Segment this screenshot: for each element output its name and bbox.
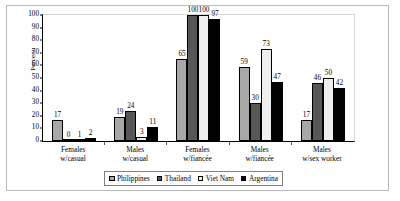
bar-slot: 17 (52, 15, 63, 141)
legend-swatch-icon (157, 176, 163, 182)
bar[interactable] (52, 120, 63, 141)
bar-slot: 3 (136, 15, 147, 141)
bar-value-label: 50 (325, 70, 332, 78)
x-label-line-2: w/fiancée (229, 154, 291, 163)
x-label-line-1: Females (166, 145, 228, 154)
x-label-line-1: Males (229, 145, 291, 154)
bar-slot: 11 (147, 15, 158, 141)
bar-group: 6510010097 (167, 15, 229, 141)
bar-group: 17012 (43, 15, 105, 141)
bar-value-label: 2 (89, 130, 93, 138)
bar[interactable] (147, 127, 158, 141)
legend-label: Thailand (165, 175, 191, 182)
bar-value-label: 100 (188, 7, 199, 15)
legend-label: Argentina (249, 175, 278, 182)
x-axis-category-label: Femalesw/fiancée (166, 145, 228, 164)
bar-slot: 73 (261, 15, 272, 141)
bar-group-bars: 1924311 (105, 15, 167, 141)
bar[interactable] (261, 49, 272, 141)
bar-slot: 65 (176, 15, 187, 141)
bar-slot: 47 (272, 15, 283, 141)
legend-swatch-icon (109, 176, 115, 182)
bar-slot: 24 (125, 15, 136, 141)
bar[interactable] (334, 88, 345, 141)
bar-value-label: 17 (54, 112, 61, 120)
bar-slot: 0 (63, 15, 74, 141)
legend-item[interactable]: Argentina (241, 175, 278, 182)
bar-value-label: 1 (78, 132, 82, 140)
bar[interactable] (176, 59, 187, 141)
bar-slot: 30 (250, 15, 261, 141)
bar-slot: 100 (198, 15, 209, 141)
chart-legend: PhilippinesThailandViet NamArgentina (104, 171, 283, 186)
bar-group: 1924311 (105, 15, 167, 141)
bar[interactable] (209, 19, 220, 141)
x-tick-mark (229, 142, 230, 145)
bar-chart-figure: Percent 0102030405060708090100 170121924… (0, 0, 400, 201)
bar-slot: 1 (74, 15, 85, 141)
bar-slot: 17 (301, 15, 312, 141)
x-tick-mark (291, 142, 292, 145)
bar[interactable] (114, 117, 125, 141)
x-axis-category-label: Femalesw/casual (42, 145, 104, 164)
bar-group-bars: 17012 (43, 15, 105, 141)
bar-value-label: 3 (140, 129, 144, 137)
bar-slot: 50 (323, 15, 334, 141)
plot-panel: 0102030405060708090100 17012192431165100… (42, 14, 355, 142)
bar-group-bars: 17465042 (292, 15, 354, 141)
bar[interactable] (136, 137, 147, 141)
bar-value-label: 73 (263, 41, 270, 49)
legend-item[interactable]: Philippines (109, 175, 150, 182)
bar-value-label: 24 (127, 103, 134, 111)
bar-slot: 19 (114, 15, 125, 141)
bar-group-bars: 59307347 (230, 15, 292, 141)
bar[interactable] (323, 78, 334, 141)
x-label-line-2: w/casual (42, 154, 104, 163)
bar-slot: 59 (239, 15, 250, 141)
x-tick-mark (166, 142, 167, 145)
bar-value-label: 97 (211, 11, 218, 19)
bar-value-label: 65 (178, 51, 185, 59)
bar-value-label: 100 (199, 7, 210, 15)
legend-label: Viet Nam (206, 175, 234, 182)
x-axis-category-label: Malesw/sex worker (291, 145, 353, 164)
bar[interactable] (250, 103, 261, 141)
x-label-line-1: Males (291, 145, 353, 154)
legend-item[interactable]: Thailand (157, 175, 191, 182)
bar[interactable] (125, 111, 136, 141)
bar[interactable] (272, 82, 283, 141)
bar-value-label: 19 (116, 109, 123, 117)
x-tick-mark (104, 142, 105, 145)
plot-area: 0102030405060708090100 17012192431165100… (43, 15, 354, 141)
legend-item[interactable]: Viet Nam (198, 175, 234, 182)
bar[interactable] (198, 15, 209, 141)
x-label-line-2: w/sex worker (291, 154, 353, 163)
legend-swatch-icon (198, 176, 204, 182)
bar-value-label: 0 (67, 132, 71, 140)
bar[interactable] (74, 139, 85, 141)
x-label-line-1: Males (104, 145, 166, 154)
bar[interactable] (312, 83, 323, 141)
bar-slot: 2 (85, 15, 96, 141)
bar-group: 17465042 (292, 15, 354, 141)
x-label-line-2: w/fiancée (166, 154, 228, 163)
bar[interactable] (85, 138, 96, 141)
bar-value-label: 30 (252, 95, 259, 103)
bar-value-label: 17 (303, 112, 310, 120)
bar-slot: 42 (334, 15, 345, 141)
x-label-line-2: w/casual (104, 154, 166, 163)
legend-swatch-icon (241, 176, 247, 182)
bar[interactable] (187, 15, 198, 141)
legend-label: Philippines (117, 175, 150, 182)
bar-value-label: 42 (336, 80, 343, 88)
bar-value-label: 46 (314, 75, 321, 83)
x-axis-category-label: Malesw/casual (104, 145, 166, 164)
bar-value-label: 11 (149, 119, 156, 127)
bar-value-label: 59 (241, 59, 248, 67)
bar-group-bars: 6510010097 (167, 15, 229, 141)
bar[interactable] (239, 67, 250, 141)
bar-slot: 97 (209, 15, 220, 141)
bar-group: 59307347 (230, 15, 292, 141)
bar[interactable] (301, 120, 312, 141)
bar-slot: 46 (312, 15, 323, 141)
